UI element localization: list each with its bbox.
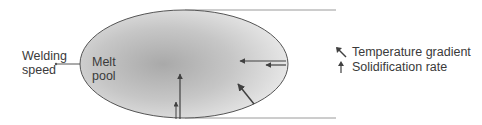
- melt-pool-diagram: Welding speed Melt pool Temperature grad…: [0, 0, 482, 125]
- up-arrow-icon: [334, 60, 348, 74]
- diagonal-arrow-icon: [334, 45, 348, 59]
- welding-speed-label-line2: speed: [22, 63, 67, 77]
- melt-pool-label-line2: pool: [92, 69, 116, 83]
- legend: Temperature gradient Solidification rate: [334, 44, 471, 74]
- legend-label: Solidification rate: [352, 60, 447, 74]
- welding-speed-label-line1: Welding: [22, 49, 67, 63]
- melt-pool-label: Melt pool: [92, 55, 116, 83]
- legend-label: Temperature gradient: [352, 45, 471, 59]
- welding-speed-label: Welding speed: [22, 49, 67, 77]
- legend-item-solidification-rate: Solidification rate: [334, 59, 471, 74]
- melt-pool-label-line1: Melt: [92, 55, 116, 69]
- legend-item-temperature-gradient: Temperature gradient: [334, 44, 471, 59]
